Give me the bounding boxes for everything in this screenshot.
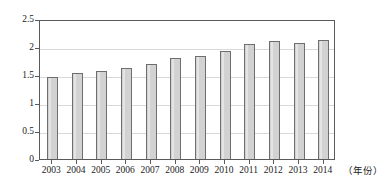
x-tick-label: 2014 <box>313 166 332 176</box>
bar <box>195 56 206 159</box>
x-tick-mark <box>224 160 225 164</box>
x-tick-mark <box>249 160 250 164</box>
x-axis: 2003200420052006200720082009201020112012… <box>0 166 392 182</box>
bar <box>72 73 83 159</box>
x-tick-label: 2005 <box>91 166 110 176</box>
x-tick-label: 2004 <box>67 166 86 176</box>
x-tick-mark <box>101 160 102 164</box>
plot-area <box>39 20 335 160</box>
x-tick-mark <box>51 160 52 164</box>
bar <box>146 64 157 159</box>
bar <box>121 68 132 159</box>
gridline <box>40 77 334 78</box>
x-tick-label: 2010 <box>215 166 234 176</box>
y-tick-mark <box>35 76 39 77</box>
bar <box>269 41 280 159</box>
x-tick-mark <box>76 160 77 164</box>
x-tick-label: 2006 <box>116 166 135 176</box>
y-tick-label: 1 <box>29 99 34 109</box>
bar <box>96 71 107 159</box>
y-tick-mark <box>35 104 39 105</box>
x-tick-label: 2007 <box>141 166 160 176</box>
bar <box>220 51 231 159</box>
x-tick-label: 2011 <box>239 166 258 176</box>
bar-chart-figure: 00.511.522.5 200320042005200620072008200… <box>0 0 392 196</box>
bar <box>47 77 58 159</box>
y-tick-mark <box>35 132 39 133</box>
y-tick-label: 2.5 <box>22 15 34 25</box>
x-tick-label: 2003 <box>42 166 61 176</box>
x-tick-label: 2012 <box>264 166 283 176</box>
x-tick-mark <box>298 160 299 164</box>
x-tick-mark <box>175 160 176 164</box>
x-tick-mark <box>273 160 274 164</box>
x-tick-mark <box>125 160 126 164</box>
gridline <box>40 49 334 50</box>
y-tick-mark <box>35 20 39 21</box>
bar <box>294 43 305 159</box>
x-axis-title: （年份） <box>343 166 383 176</box>
y-tick-label: 1.5 <box>22 71 34 81</box>
y-tick-label: 0.5 <box>22 127 34 137</box>
bar <box>318 40 329 159</box>
gridline <box>40 133 334 134</box>
y-tick-label: 0 <box>29 155 34 165</box>
x-tick-mark <box>199 160 200 164</box>
x-tick-mark <box>323 160 324 164</box>
x-tick-label: 2013 <box>289 166 308 176</box>
bar <box>170 58 181 159</box>
gridline <box>40 105 334 106</box>
y-tick-mark <box>35 48 39 49</box>
x-tick-label: 2009 <box>190 166 209 176</box>
y-tick-label: 2 <box>29 43 34 53</box>
x-tick-label: 2008 <box>165 166 184 176</box>
bar <box>244 44 255 159</box>
x-tick-mark <box>150 160 151 164</box>
